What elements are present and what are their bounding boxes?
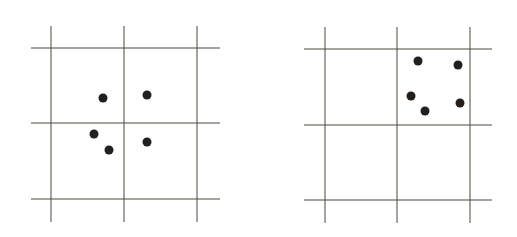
dot [414, 57, 423, 66]
diagram-canvas [0, 0, 517, 237]
dot [90, 130, 99, 139]
dot [143, 138, 152, 147]
dot [99, 94, 108, 103]
dot [456, 99, 465, 108]
dot [105, 146, 114, 155]
dot [407, 92, 416, 101]
left-grid-panel [31, 26, 220, 222]
dot [143, 91, 152, 100]
dot [454, 61, 463, 70]
right-grid-panel [304, 27, 492, 223]
dot [421, 107, 430, 116]
